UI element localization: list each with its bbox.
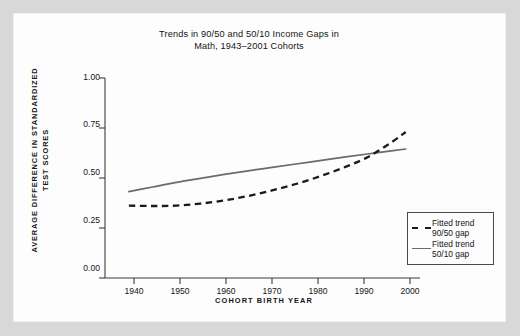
plot-area xyxy=(14,14,505,321)
chart-figure: Trends in 90/50 and 50/10 Income Gaps in… xyxy=(14,14,505,321)
legend: Fitted trend 90/50 gap Fitted trend 50/1… xyxy=(407,212,494,265)
legend-label-line2: 90/50 gap xyxy=(432,228,474,238)
legend-label-line2: 50/10 gap xyxy=(432,249,474,259)
series-line-90-50-gap xyxy=(129,132,406,206)
legend-item-label: Fitted trend 50/10 gap xyxy=(432,239,474,259)
x-axis-ticks xyxy=(134,278,410,284)
legend-label-line1: Fitted trend xyxy=(432,239,474,249)
series-line-50-10-gap xyxy=(129,149,406,192)
legend-item-label: Fitted trend 90/50 gap xyxy=(432,218,474,238)
legend-label-line1: Fitted trend xyxy=(432,218,474,228)
y-axis-ticks xyxy=(99,78,105,278)
legend-item-90-50-gap: Fitted trend 90/50 gap xyxy=(410,218,490,238)
legend-item-50-10-gap: Fitted trend 50/10 gap xyxy=(410,239,490,259)
dashed-line-swatch-icon xyxy=(410,222,432,234)
solid-line-swatch-icon xyxy=(410,243,432,255)
figure-page: Trends in 90/50 and 50/10 Income Gaps in… xyxy=(14,14,505,321)
